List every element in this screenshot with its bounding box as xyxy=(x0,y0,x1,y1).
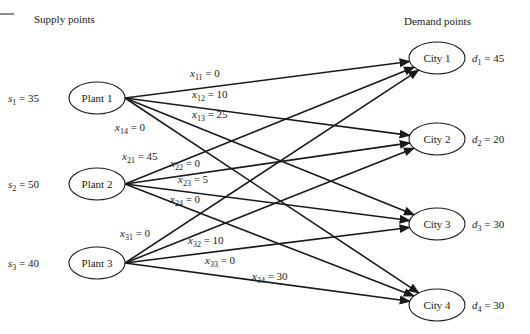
demand-label-2: d2 = 20 xyxy=(472,133,505,148)
flow-label-14: x14 = 0 xyxy=(114,121,146,136)
demand-label-4: d4 = 30 xyxy=(472,299,505,314)
plant-label-1: Plant 1 xyxy=(82,92,113,104)
transportation-network-diagram: Supply points Demand points x11 = 0x12 =… xyxy=(0,0,530,334)
flow-label-21: x21 = 45 xyxy=(121,150,158,165)
plant-label-3: Plant 3 xyxy=(82,257,113,269)
flow-label-24: x24 = 0 xyxy=(169,193,201,208)
flow-label-13: x13 = 25 xyxy=(191,108,228,123)
flow-label-32: x32 = 10 xyxy=(187,234,224,249)
flow-label-23: x23 = 5 xyxy=(177,173,209,188)
demand-points-heading: Demand points xyxy=(404,15,471,27)
demand-label-3: d3 = 30 xyxy=(472,218,505,233)
city-label-4: City 4 xyxy=(423,299,451,311)
demand-label-1: d1 = 45 xyxy=(472,52,505,67)
city-label-2: City 2 xyxy=(423,133,450,145)
plant-label-2: Plant 2 xyxy=(82,178,113,190)
flow-label-12: x12 = 10 xyxy=(191,88,228,103)
flow-edge-34 xyxy=(125,263,410,301)
flow-label-31: x31 = 0 xyxy=(119,227,151,242)
flow-edge-32 xyxy=(125,148,414,263)
supply-label-1: s1 = 35 xyxy=(8,92,39,107)
supply-label-2: s2 = 50 xyxy=(8,178,39,193)
flow-edge-13 xyxy=(125,98,414,215)
supply-points-heading: Supply points xyxy=(34,13,95,25)
city-label-3: City 3 xyxy=(423,218,451,230)
flow-edges xyxy=(125,62,419,302)
flow-label-11: x11 = 0 xyxy=(189,67,220,82)
city-label-1: City 1 xyxy=(423,52,450,64)
flow-edge-21 xyxy=(125,67,414,184)
flow-edge-23 xyxy=(125,184,410,220)
flow-edge-11 xyxy=(125,62,410,98)
flow-edge-22 xyxy=(125,143,410,184)
supply-label-3: s3 = 40 xyxy=(8,257,39,272)
flow-label-22: x22 = 0 xyxy=(169,157,201,172)
flow-label-33: x33 = 0 xyxy=(204,254,236,269)
